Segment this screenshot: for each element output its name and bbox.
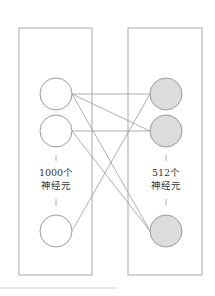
diagram-graphics: [0, 0, 215, 296]
edge-in0-out1: [72, 94, 150, 131]
output-layer-count: 512个: [136, 166, 196, 179]
input-neuron-2: [40, 115, 72, 147]
input-layer-count: 1000个: [26, 166, 86, 179]
input-neuron-1: [40, 78, 72, 110]
neural-network-diagram: 1000个 神经元 512个 神经元: [0, 0, 215, 296]
input-layer-unit: 神经元: [26, 179, 86, 192]
input-layer-label: 1000个 神经元: [26, 166, 86, 192]
output-layer-unit: 神经元: [136, 179, 196, 192]
input-neuron-n: [40, 215, 72, 247]
output-neuron-2: [150, 115, 182, 147]
output-neuron-n: [150, 215, 182, 247]
output-layer-label: 512个 神经元: [136, 166, 196, 192]
output-neuron-1: [150, 78, 182, 110]
connection-lines: [72, 94, 150, 231]
